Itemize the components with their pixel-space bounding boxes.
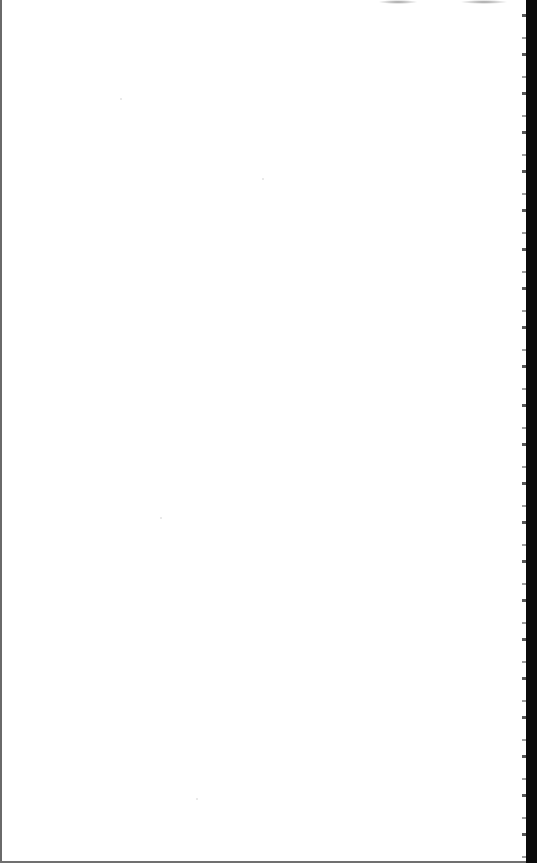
scan-speck — [262, 178, 264, 180]
blank-paper-sheet — [2, 0, 526, 861]
top-smudge-mark — [460, 0, 508, 4]
scan-speck — [120, 98, 122, 100]
top-smudge-mark — [378, 0, 418, 4]
left-scan-border — [0, 0, 2, 863]
scanned-page — [0, 0, 537, 863]
scan-speck — [160, 517, 162, 519]
right-scan-shadow — [526, 0, 537, 863]
scan-speck — [196, 798, 198, 800]
